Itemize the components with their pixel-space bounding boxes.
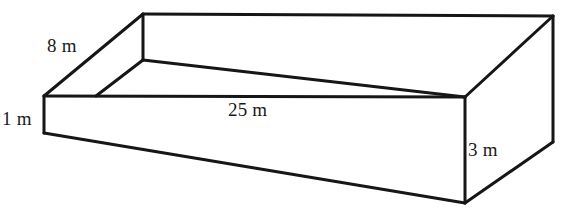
dimension-label-length: 25 m	[228, 100, 267, 119]
edge-rim-back-top	[143, 14, 553, 16]
dimension-label-width: 8 m	[47, 36, 77, 55]
box-diagram-svg	[0, 0, 568, 212]
dimension-label-height: 3 m	[468, 140, 498, 159]
box-diagram: 8 m 25 m 1 m 3 m	[0, 0, 568, 212]
dimension-label-depth: 1 m	[2, 109, 32, 128]
edge-rim-front-top	[44, 96, 465, 97]
